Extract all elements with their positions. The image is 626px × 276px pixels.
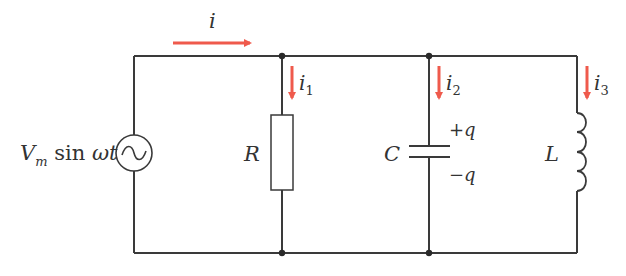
junction-dot [279, 53, 285, 59]
plus-charge-label: +q [449, 119, 476, 140]
main-current-label: i [209, 9, 216, 33]
main-current: i [173, 9, 250, 43]
inductor-label: L [544, 142, 559, 166]
wires [134, 56, 577, 253]
minus-charge-label: −q [449, 164, 476, 185]
i1-label: i1 [299, 71, 314, 98]
resistor-branch: R i1 [243, 66, 314, 190]
junction-dot [279, 250, 285, 256]
junction-dot [426, 250, 432, 256]
i3-label: i3 [594, 71, 609, 98]
i2-label: i2 [446, 71, 461, 98]
junction-dot [426, 53, 432, 59]
ac-voltage-source: Vm sin ωt [20, 135, 152, 171]
resistor-icon [271, 115, 293, 190]
resistor-label: R [243, 142, 260, 166]
source-label: Vm sin ωt [20, 141, 118, 169]
inductor-coil-icon [577, 113, 586, 191]
capacitor-label: C [384, 142, 400, 166]
rlc-circuit-diagram: Vm sin ωt i R i1 C +q −q i2 L i3 [0, 0, 626, 276]
